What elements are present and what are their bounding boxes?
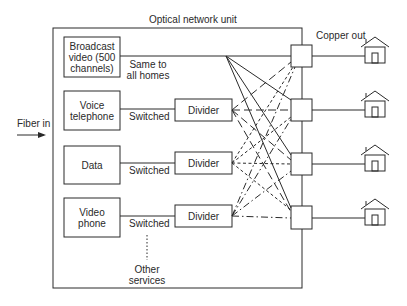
divider-label-voice: Divider (175, 99, 232, 121)
voice-fanout-lines (232, 62, 291, 212)
onu-title: Optical network unit (149, 14, 237, 25)
switched-label-voice: Switched (129, 111, 170, 122)
junction-square-2 (291, 99, 312, 121)
voice-telephone-label: Voice telephone (64, 91, 120, 130)
same-to-all-homes-label: Same to all homes (126, 59, 170, 81)
other-services-label: Other services (125, 264, 169, 286)
switched-label-video-phone: Switched (129, 218, 170, 229)
house-icon-2 (361, 91, 389, 117)
divider-label-data: Divider (175, 152, 232, 174)
junction-square-1 (291, 45, 312, 67)
data-fanout-lines (232, 67, 293, 210)
broadcast-fanout-lines (226, 56, 291, 208)
fiber-in-label: Fiber in (17, 118, 50, 129)
video-phone-label: Video phone (64, 198, 120, 237)
copper-out-label: Copper out (316, 30, 365, 41)
junction-square-4 (291, 206, 312, 229)
switched-label-data: Switched (129, 165, 170, 176)
house-icon-4 (361, 199, 389, 225)
broadcast-video-label: Broadcast video (500 channels) (64, 37, 120, 77)
divider-label-video-phone: Divider (175, 205, 232, 227)
fiber-in-arrow-icon (38, 132, 46, 138)
house-icon-3 (361, 145, 389, 171)
junction-square-3 (291, 153, 312, 175)
data-label: Data (64, 146, 120, 184)
